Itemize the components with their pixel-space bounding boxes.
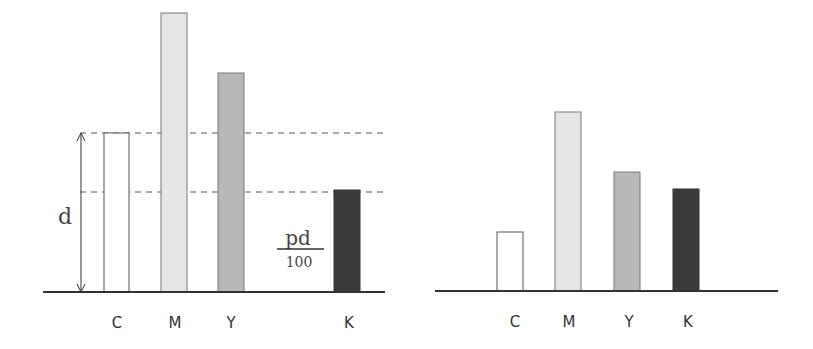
label-c: C [510, 313, 520, 331]
bar-m [161, 13, 187, 292]
bar-c [104, 133, 129, 292]
left-chart: d pd 100 C M Y K [43, 13, 385, 332]
label-m: M [563, 313, 576, 331]
label-k: K [344, 314, 355, 332]
label-y: Y [225, 314, 236, 332]
bar-c [497, 232, 523, 291]
bar-k [334, 190, 360, 292]
label-m: M [169, 314, 182, 332]
label-y: Y [623, 313, 634, 331]
fraction-numerator: pd [285, 226, 311, 250]
right-chart: C M Y K [435, 112, 778, 331]
bar-k [673, 189, 699, 291]
dimension-label: d [58, 204, 72, 229]
fraction-denominator: 100 [286, 254, 313, 270]
label-k: K [683, 313, 694, 331]
bar-y [218, 73, 244, 292]
bar-m [555, 112, 581, 291]
bar-y [614, 172, 640, 291]
diagram: d pd 100 C M Y K C M Y K [0, 0, 813, 349]
label-c: C [112, 314, 122, 332]
